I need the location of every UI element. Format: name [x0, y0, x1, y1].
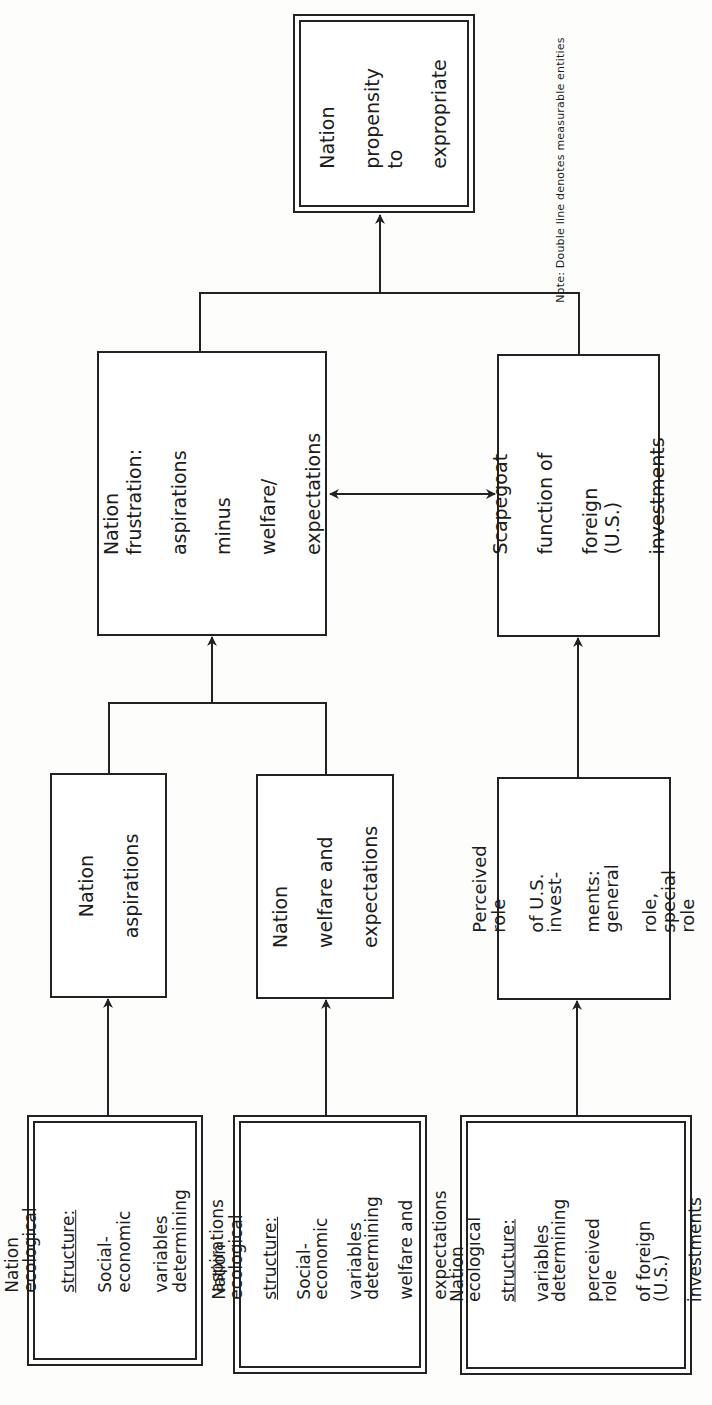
- label-line: Nation frustration:: [100, 432, 145, 554]
- label-line: of foreign (U.S.): [636, 1188, 670, 1302]
- label-line: welfare and: [398, 1190, 415, 1299]
- label-line: Social-economic: [96, 1189, 133, 1292]
- label-line: variables determining: [347, 1190, 381, 1299]
- node-nation-frustration: Nation frustration: aspirations minus we…: [97, 351, 327, 636]
- label-underlined: structure:: [262, 1190, 279, 1299]
- label-line: minus: [212, 432, 234, 554]
- node-ecological-role: Nation ecological structure: variables d…: [460, 1115, 692, 1375]
- label-line: expectations: [302, 432, 324, 554]
- label-line: Nation ecological: [211, 1190, 245, 1299]
- label-line: expropriate: [429, 59, 451, 169]
- label-underlined: structure:: [59, 1189, 78, 1292]
- label-line: Nation ecological: [3, 1189, 40, 1292]
- label-line: Scapegoat: [489, 437, 511, 554]
- label-line: Social-economic: [296, 1190, 330, 1299]
- label-line: Nation: [317, 59, 339, 169]
- legend-note: Note: Double line denotes measurable ent…: [554, 37, 567, 302]
- node-label: Nation frustration: aspirations minus we…: [78, 432, 347, 554]
- node-propensity-to-expropriate: Nation propensity to expropriate: [293, 14, 475, 213]
- label-line: perceived role: [585, 1188, 619, 1302]
- label-line: role, special role: [641, 845, 698, 932]
- node-label: Nation aspirations: [52, 833, 164, 938]
- node-nation-welfare: Nation welfare and expectations: [256, 774, 394, 999]
- label-line: welfare/: [257, 432, 279, 554]
- node-nation-aspirations: Nation aspirations: [50, 773, 167, 998]
- label-line: aspirations: [120, 833, 142, 938]
- node-scapegoat-function: Scapegoat function of foreign (U.S.) inv…: [497, 354, 660, 637]
- label-line: expectations: [359, 825, 381, 947]
- label-line: aspirations: [167, 432, 189, 554]
- node-label: Nation ecological structure: variables d…: [432, 1188, 712, 1302]
- label-line: propensity to: [362, 59, 407, 169]
- node-label: Nation propensity to expropriate: [294, 59, 473, 169]
- label-line: Nation: [269, 825, 291, 947]
- node-ecological-welfare: Nation ecological structure: Social-econ…: [233, 1115, 427, 1374]
- node-label: Scapegoat function of foreign (U.S.) inv…: [466, 437, 690, 554]
- label-underlined: structure:: [500, 1188, 517, 1302]
- label-line: variables determining: [534, 1188, 568, 1302]
- label-line: ments: general: [584, 845, 622, 932]
- label-line: Perceived role: [471, 845, 509, 932]
- label-line: Nation: [75, 833, 97, 938]
- label-line: function of: [534, 437, 556, 554]
- label-line: of U.S. invest-: [527, 845, 565, 932]
- node-ecological-aspirations: Nation ecological structure: Social-econ…: [27, 1115, 203, 1366]
- label-line: welfare and: [314, 825, 336, 947]
- label-line: Nation ecological: [449, 1188, 483, 1302]
- label-line: investments: [646, 437, 668, 554]
- node-label: Nation welfare and expectations: [247, 825, 404, 947]
- node-label: Nation ecological structure: Social-econ…: [194, 1190, 466, 1299]
- node-label: Perceived role of U.S. invest- ments: ge…: [452, 845, 712, 932]
- node-perceived-role: Perceived role of U.S. invest- ments: ge…: [497, 777, 671, 1000]
- label-line: investments: [687, 1188, 704, 1302]
- label-line: variables determining: [152, 1189, 189, 1292]
- label-line: foreign (U.S.): [579, 437, 624, 554]
